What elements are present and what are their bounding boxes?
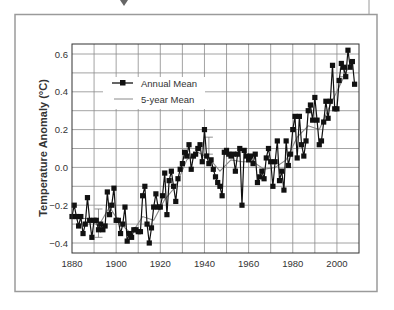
data-point-marker [261,176,266,181]
data-point-marker [266,146,271,151]
data-point-marker [319,138,324,143]
data-point-marker [314,118,319,123]
data-point-marker [250,161,255,166]
data-point-marker [337,78,342,83]
data-point-marker [290,127,295,132]
data-point-marker [279,169,284,174]
data-point-marker [341,65,346,70]
data-point-marker [122,204,127,209]
data-point-marker [259,169,264,174]
data-point-marker [348,65,353,70]
data-point-marker [273,159,278,164]
data-point-marker [288,152,293,157]
data-point-marker [76,223,81,228]
data-point-marker [328,99,333,104]
data-point-marker [233,169,238,174]
data-point-marker [325,116,330,121]
y-tick-label: 0.4 [55,86,68,97]
data-point-marker [242,148,247,153]
data-point-marker [184,153,189,158]
data-point-marker [213,174,218,179]
annual-mean-marker-icon [120,80,126,86]
x-tick-label: 1940 [194,258,215,269]
data-point-marker [306,108,311,113]
data-point-marker [158,204,163,209]
data-point-marker [281,187,286,192]
data-point-marker [129,235,134,240]
x-tick-label: 1880 [61,258,82,269]
data-point-marker [200,159,205,164]
data-point-marker [343,74,348,79]
data-point-marker [193,152,198,157]
y-tick-label: −0.4 [49,238,68,249]
data-point-marker [147,240,152,245]
legend-five-year-mean: 5-year Mean [141,94,194,105]
y-tick-label: 0.2 [55,124,68,135]
data-point-marker [352,82,357,87]
data-point-marker [275,138,280,143]
data-point-marker [80,231,85,236]
y-tick-label: −0.2 [49,200,68,211]
data-point-marker [118,231,123,236]
data-point-marker [111,186,116,191]
x-tick-label: 1920 [150,258,171,269]
x-tick-label: 1980 [282,258,303,269]
data-point-marker [334,106,339,111]
data-point-marker [120,222,125,227]
data-point-marker [89,235,94,240]
data-point-marker [171,184,176,189]
data-point-marker [277,178,282,183]
data-point-marker [173,199,178,204]
data-point-marker [239,203,244,208]
y-tick-label: 0.0 [55,162,68,173]
data-point-marker [217,184,222,189]
data-point-marker [160,193,165,198]
data-point-marker [312,95,317,100]
data-point-marker [235,152,240,157]
data-point-marker [85,195,90,200]
legend: Annual Mean 5-year Mean [103,77,205,109]
data-point-marker [107,212,112,217]
x-tick-label: 1900 [106,258,127,269]
down-arrow-icon [120,0,128,6]
data-point-marker [220,193,225,198]
data-point-marker [149,225,154,230]
data-point-marker [164,212,169,217]
data-point-marker [103,223,108,228]
data-point-marker [270,184,275,189]
data-point-marker [180,161,185,166]
data-point-marker [297,114,302,119]
data-point-marker [253,152,258,157]
y-tick-label: 0.6 [55,49,68,60]
data-point-marker [303,138,308,143]
data-point-marker [138,229,143,234]
data-point-marker [178,167,183,172]
data-point-marker [255,180,260,185]
data-point-marker [202,127,207,132]
data-point-marker [105,189,110,194]
data-point-marker [169,169,174,174]
data-point-marker [78,214,83,219]
data-point-marker [153,191,158,196]
data-point-marker [301,153,306,158]
data-point-marker [175,176,180,181]
data-point-marker [167,178,172,183]
data-point-marker [345,48,350,53]
data-point-marker [142,184,147,189]
chart-panel: −0.4−0.20.00.20.40.6 1880190019201940196… [0,0,394,310]
data-point-marker [330,63,335,68]
x-tick-label: 1960 [238,258,259,269]
data-point-marker [284,138,289,143]
data-point-marker [109,203,114,208]
data-point-marker [162,170,167,175]
data-point-marker [189,167,194,172]
y-axis-label: Temperature Anomaly (°C) [37,79,49,217]
data-point-marker [186,142,191,147]
data-point-marker [211,167,216,172]
data-point-marker [208,157,213,162]
legend-annual-mean: Annual Mean [141,78,197,89]
data-point-marker [286,163,291,168]
x-tick-label: 2000 [326,258,347,269]
data-point-marker [140,193,145,198]
data-point-marker [350,59,355,64]
